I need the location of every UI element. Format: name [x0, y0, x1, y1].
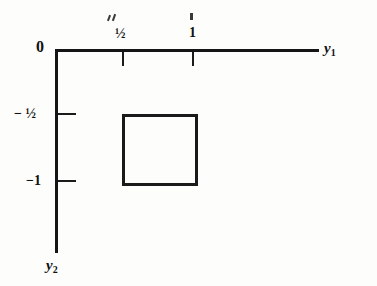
y-tick-minus-half [58, 113, 76, 115]
scan-artifact-mark-half-b [112, 14, 116, 21]
x-tick-one [192, 52, 194, 66]
horizontal-axis-label-subscript: 1 [331, 47, 336, 58]
vertical-axis-label-base: y [46, 257, 53, 273]
horizontal-axis-label: y1 [324, 41, 336, 58]
origin-label: 0 [36, 39, 44, 55]
scan-artifact-mark-half-a [107, 15, 111, 21]
horizontal-axis-line [55, 49, 319, 52]
square-region [122, 114, 198, 186]
scan-artifact-mark-one [190, 13, 193, 20]
coordinate-diagram: 0 ½ 1 − ½ −1 y1 y2 [0, 0, 377, 286]
x-tick-label-half: ½ [115, 27, 126, 41]
vertical-axis-label-subscript: 2 [53, 264, 58, 275]
x-tick-label-one: 1 [189, 26, 196, 40]
y-tick-minus-one [58, 180, 76, 182]
x-tick-half [122, 52, 124, 66]
horizontal-axis-label-base: y [324, 40, 331, 56]
y-tick-label-minus-half: − ½ [14, 107, 36, 121]
vertical-axis-label: y2 [46, 258, 58, 275]
vertical-axis-line [55, 49, 58, 253]
y-tick-label-minus-one: −1 [26, 174, 41, 188]
